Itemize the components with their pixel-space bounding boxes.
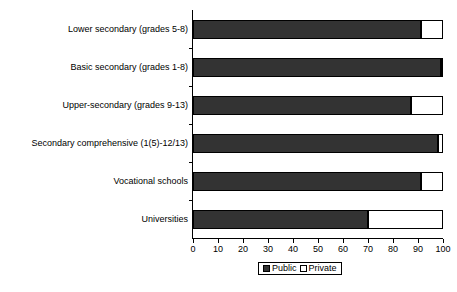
category-label: Upper-secondary (grades 9-13) bbox=[0, 100, 188, 110]
category-label: Basic secondary (grades 1-8) bbox=[0, 62, 188, 72]
bar-row bbox=[193, 172, 443, 191]
bar-row bbox=[193, 58, 443, 77]
category-label: Lower secondary (grades 5-8) bbox=[0, 24, 188, 34]
bar-row bbox=[193, 96, 443, 115]
bar-segment-private bbox=[438, 134, 443, 153]
x-axis-tick-label: 80 bbox=[381, 244, 405, 254]
x-axis-tick bbox=[218, 239, 219, 243]
bar-segment-private bbox=[421, 20, 444, 39]
x-axis-tick-label: 90 bbox=[406, 244, 430, 254]
x-axis-tick bbox=[343, 239, 344, 243]
bar-segment-private bbox=[411, 96, 444, 115]
legend-swatch-private-icon bbox=[300, 265, 307, 272]
x-axis-tick bbox=[418, 239, 419, 243]
y-axis-tick bbox=[189, 86, 193, 87]
legend-label-public: Public bbox=[272, 264, 297, 273]
legend-item-private: Private bbox=[300, 264, 337, 273]
bar-segment-private bbox=[441, 58, 444, 77]
bar-segment-public bbox=[193, 172, 421, 191]
stacked-bar-chart: Lower secondary (grades 5-8)Basic second… bbox=[0, 0, 457, 292]
legend-label-private: Private bbox=[309, 264, 337, 273]
y-axis-tick bbox=[189, 200, 193, 201]
x-axis-tick bbox=[368, 239, 369, 243]
x-axis-tick-label: 30 bbox=[256, 244, 280, 254]
x-axis-tick-label: 70 bbox=[356, 244, 380, 254]
x-axis-tick-label: 20 bbox=[231, 244, 255, 254]
bar-segment-private bbox=[368, 210, 443, 229]
x-axis-tick bbox=[443, 239, 444, 243]
y-axis-tick bbox=[189, 162, 193, 163]
chart-legend: Public Private bbox=[258, 262, 342, 275]
y-axis-tick bbox=[189, 48, 193, 49]
x-axis-tick-label: 10 bbox=[206, 244, 230, 254]
category-label: Secondary comprehensive (1(5)-12/13) bbox=[0, 138, 188, 148]
bar-segment-public bbox=[193, 134, 438, 153]
legend-swatch-public-icon bbox=[263, 265, 270, 272]
x-axis-tick-label: 100 bbox=[431, 244, 455, 254]
bar-segment-public bbox=[193, 210, 368, 229]
legend-item-public: Public bbox=[263, 264, 297, 273]
bar-row bbox=[193, 210, 443, 229]
x-axis-tick bbox=[293, 239, 294, 243]
bar-segment-public bbox=[193, 96, 411, 115]
bar-row bbox=[193, 134, 443, 153]
bar-segment-public bbox=[193, 20, 421, 39]
category-label: Vocational schools bbox=[0, 176, 188, 186]
bar-segment-public bbox=[193, 58, 441, 77]
y-axis-tick bbox=[189, 124, 193, 125]
x-axis-tick-label: 50 bbox=[306, 244, 330, 254]
x-axis-tick-label: 40 bbox=[281, 244, 305, 254]
x-axis-tick bbox=[268, 239, 269, 243]
category-axis-labels: Lower secondary (grades 5-8)Basic second… bbox=[0, 10, 192, 238]
x-axis-tick bbox=[243, 239, 244, 243]
plot-area: 0102030405060708090100 bbox=[193, 10, 443, 238]
x-axis-tick-label: 60 bbox=[331, 244, 355, 254]
bar-row bbox=[193, 20, 443, 39]
category-label: Universities bbox=[0, 214, 188, 224]
bar-segment-private bbox=[421, 172, 444, 191]
x-axis-tick bbox=[393, 239, 394, 243]
x-axis-tick-label: 0 bbox=[181, 244, 205, 254]
x-axis-tick bbox=[193, 239, 194, 243]
x-axis-tick bbox=[318, 239, 319, 243]
